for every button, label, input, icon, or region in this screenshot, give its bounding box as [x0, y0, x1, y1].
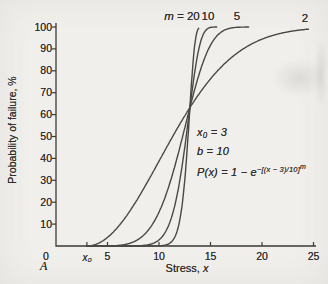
weibull-failure-probability-figure: m = 20 10 5 2 Probability of failure, % …: [0, 0, 328, 284]
x-axis-title-var: x: [203, 262, 209, 274]
y-tick-label: 20: [22, 196, 52, 208]
y-tick-label: 60: [22, 108, 52, 120]
formula-exponent: −[(x − 3)/10]: [257, 165, 300, 174]
formula-base: P(x) = 1 − e: [197, 166, 257, 178]
m-equals-prefix: m =: [164, 10, 187, 22]
y-tick-label: 30: [22, 174, 52, 186]
y-tick-label: 80: [22, 64, 52, 76]
curve-label-m5: 5: [222, 10, 252, 22]
x-tick-label: 15: [199, 250, 223, 262]
x-axis-title: Stress, x: [127, 262, 247, 274]
x0-tick-label: x₀: [77, 252, 97, 263]
annotation-formula: P(x) = 1 − e−[(x − 3)/10]m: [197, 163, 306, 178]
x-tick-label: 25: [302, 250, 326, 262]
formula-exponent-power: m: [300, 163, 306, 170]
y-axis-title: Probability of failure, %: [6, 30, 20, 230]
y-tick-label: 10: [22, 218, 52, 230]
y-tick-label: 100: [22, 21, 52, 33]
x-tick-label: 5: [96, 250, 120, 262]
y-tick-label: 90: [22, 42, 52, 54]
y-tick-label: 50: [22, 130, 52, 142]
x-tick-label: 20: [250, 250, 274, 262]
y-tick-label: 40: [22, 152, 52, 164]
curve-label-m2: 2: [290, 12, 320, 24]
annotation-b: b = 10: [197, 145, 229, 157]
x-axis-title-text: Stress,: [166, 262, 203, 274]
y-tick-label: 70: [22, 86, 52, 98]
annotation-x0: x₀ = 3: [197, 126, 227, 138]
curve-label-m10: 10: [193, 10, 223, 22]
x-tick-label: 0: [34, 250, 58, 262]
x-tick-label: 10: [147, 250, 171, 262]
